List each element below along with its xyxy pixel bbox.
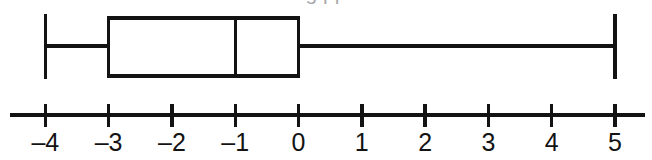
box-iqr-rect bbox=[109, 18, 299, 76]
boxplot-figure: g pp –4–3–2–1012345 bbox=[0, 0, 652, 160]
axis-tick-label-0: –4 bbox=[31, 128, 59, 156]
boxplot-canvas: –4–3–2–1012345 bbox=[0, 0, 652, 160]
axis-tick-label-3: –1 bbox=[221, 128, 249, 156]
axis-tick-label-8: 4 bbox=[545, 128, 559, 156]
axis-tick-label-1: –3 bbox=[95, 128, 123, 156]
axis-tick-label-2: –2 bbox=[158, 128, 186, 156]
axis-tick-label-6: 2 bbox=[418, 128, 432, 156]
axis-tick-label-7: 3 bbox=[481, 128, 495, 156]
axis-tick-label-9: 5 bbox=[608, 128, 622, 156]
axis-tick-label-5: 1 bbox=[355, 128, 369, 156]
axis-tick-label-4: 0 bbox=[292, 128, 306, 156]
